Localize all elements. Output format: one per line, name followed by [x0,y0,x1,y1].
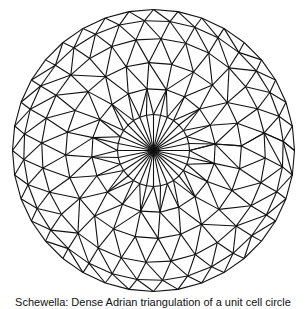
mesh-edge [107,192,122,204]
mesh-edge [146,262,163,280]
mesh-edge [195,27,218,37]
mesh-edge [210,125,215,144]
mesh-edge [193,72,212,85]
mesh-edge [218,28,224,37]
mesh-edge [232,190,251,205]
mesh-edge [217,226,236,243]
mesh-edge [188,254,196,275]
mesh-edge [126,63,149,67]
mesh-edge [78,216,95,233]
mesh-edge [63,42,74,47]
mesh-edge [31,60,45,80]
mesh-edge [240,146,242,169]
mesh-edge [106,67,127,77]
mesh-edge [154,289,178,291]
mesh-edge [30,86,40,109]
mesh-edge [214,144,215,163]
mesh-edge [46,118,67,132]
mesh-edge [98,248,112,274]
mesh-edge [146,186,153,187]
mesh-edge [95,216,114,229]
mesh-edge [161,39,186,43]
mesh-edge [50,192,62,214]
mesh-edge [95,216,99,248]
mesh-edge [279,116,283,141]
mesh-edge [172,64,194,72]
mesh-edge [201,209,218,224]
mesh-edge [158,212,160,238]
mesh-edge [188,267,212,276]
mesh-edge [141,186,147,211]
mesh-edge [128,176,133,180]
mesh-edge [160,212,181,234]
mesh-edge [136,40,149,63]
mesh-edge [28,185,49,193]
mesh-edge [183,131,186,137]
mesh-edge [261,158,265,183]
mesh-edge [21,86,41,102]
mesh-edge [42,118,46,143]
mesh-edge [112,25,120,46]
mesh-edge [50,192,80,198]
mesh-edge [128,94,139,117]
mesh-edge [136,21,144,40]
mesh-edge [121,258,146,262]
mesh-edge [246,71,257,87]
mesh-edge [134,180,140,183]
mesh-edge [229,68,246,87]
mesh-edge [227,87,245,103]
mesh-edge [233,226,236,253]
mesh-edge [146,238,158,262]
mesh-edge [189,158,214,164]
mesh-edge [24,143,42,160]
mesh-edge [185,97,200,109]
mesh-edge [30,109,46,118]
mesh-edge [160,207,179,212]
mesh-edge [89,263,105,283]
mesh-edge [189,151,190,158]
mesh-edge [154,10,178,12]
mesh-edge [70,176,97,178]
mesh-edge [212,68,229,85]
mesh-edge [50,178,70,193]
mesh-edge [195,18,202,27]
mesh-edge [15,126,25,134]
mesh-edge [154,90,167,115]
mesh-edge [56,95,75,110]
mesh-edge [45,60,55,65]
mesh-edge [61,198,79,214]
mesh-edge [154,10,170,22]
mesh-edge [233,253,244,258]
mesh-edge [179,197,195,208]
mesh-edge [144,10,153,21]
mesh-edge [147,63,149,89]
mesh-edge [163,276,188,280]
mesh-edge [128,121,133,125]
mesh-edge [161,115,168,117]
mesh-edge [83,273,105,283]
mesh-edge [128,89,147,94]
mesh-edge [158,238,171,261]
mesh-edge [118,137,120,144]
mesh-edge [207,163,214,181]
mesh-edge [119,21,144,25]
mesh-edge [43,155,66,168]
mesh-edge [137,279,162,280]
mesh-edge [146,261,171,262]
mesh-edge [214,163,232,190]
mesh-edge [95,25,119,34]
mesh-edge [21,80,31,102]
mesh-edge [283,141,292,175]
mesh-edge [112,47,127,67]
mesh-edge [188,276,202,283]
mesh-edge [89,248,98,263]
mesh-edge [140,184,147,186]
mesh-edge [95,192,108,216]
mesh-edge [42,143,66,155]
mesh-edge [195,254,211,266]
mesh-edge [28,168,43,185]
mesh-edge [215,123,237,144]
mesh-edge [105,18,119,25]
mesh-edge [171,234,181,261]
mesh-edge [88,77,105,92]
